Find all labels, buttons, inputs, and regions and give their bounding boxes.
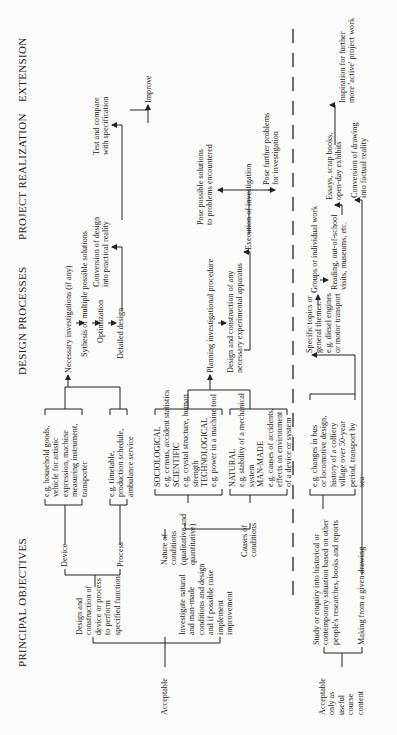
nature-of-conditions: Nature of conditions (qualitative and qu… (160, 514, 198, 565)
groups: Groups or individual work (310, 206, 319, 293)
pose-problems: Pose further problems for investigation (262, 113, 281, 185)
inspiration: Inspiration for further more 'active' pr… (338, 18, 357, 103)
execution: Execution of investigation (244, 164, 253, 250)
device-label: Device (60, 544, 69, 567)
nature-examples: SOCIOLOGICAL e.g. census, accident stati… (153, 390, 219, 487)
necessary-investigations: Necessary investigations (if any) (64, 265, 73, 373)
detailed-design: Detailed design (116, 308, 125, 359)
process-examples: e.g. timetable, production schedule, amb… (107, 429, 135, 497)
planning: Planning investigational procedure (206, 259, 215, 373)
label-acceptable: Acceptable (160, 678, 169, 715)
improve: Improve (144, 75, 153, 103)
header-principal-objectives: PRINCIPAL OBJECTIVES (16, 538, 28, 667)
header-design-processes: DESIGN PROCESSES (16, 267, 28, 375)
header-project-realization: PROJECT REALIZATION (16, 113, 28, 240)
study-examples: e.g. changes in bus or locomotive design… (310, 416, 366, 487)
test-compare: Test and compare with specification (92, 97, 111, 155)
optimization: Optimization (96, 300, 105, 343)
design-construction-text: Design and construction of device or pro… (75, 576, 122, 635)
making-drawing: Making from a given drawing (357, 547, 366, 645)
header-extension: EXTENSION (16, 38, 28, 102)
label-useful-content: Acceptable only as useful course content (318, 678, 365, 715)
apparatus: Design and construction of any necessary… (226, 263, 245, 373)
essays: Essays, scrap books, open-day exhibits (325, 133, 344, 200)
synthesis: Sythesis of multiple possible solutions (80, 231, 89, 357)
reading: Reading, out-of-school visits, museums, … (330, 215, 349, 291)
conversion-design: Conversion of design into practical real… (92, 217, 111, 287)
process-label: Process (116, 542, 125, 567)
study-text: Study or enquiry into historical or cont… (312, 519, 340, 645)
causes-examples: NATURAL e.g. stability of a mechanical s… (228, 393, 294, 487)
conversion-drawing: Conversion of drawing into factual reali… (350, 123, 369, 199)
causes-of-conditions: Causes of conditions (240, 523, 259, 557)
investigate-text: Investigate natural and man-made conditi… (178, 564, 234, 635)
pose-solutions: Pose possible solutions to problems enco… (196, 144, 215, 225)
device-examples: e.g. household goods, vehicle for artist… (42, 424, 89, 497)
specific-topics: Specific topics or general themes. e.g. … (305, 293, 343, 353)
flowchart-canvas: PRINCIPAL OBJECTIVES DESIGN PROCESSES PR… (0, 0, 397, 735)
